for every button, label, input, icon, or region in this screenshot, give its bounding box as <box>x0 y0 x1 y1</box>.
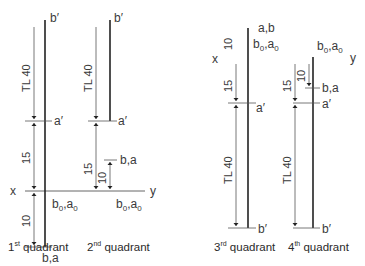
q3-caption-label: quadrant <box>227 241 276 253</box>
right-panel: x y a,b b0,a0 10 15 a′ TL 40 b′ <box>212 21 356 236</box>
q1-tl-label: TL 40 <box>20 64 32 92</box>
q3-b-prime-label: b′ <box>258 222 268 236</box>
q1-15-label: 15 <box>20 152 32 164</box>
q4-ba-label: b,a <box>322 81 339 95</box>
q2-caption-label: quadrant <box>101 241 150 253</box>
q3-tl-label: TL 40 <box>222 156 234 184</box>
q4-10-label: 10 <box>295 70 307 82</box>
x-axis-label: x <box>10 184 16 198</box>
q2-tl-label: TL 40 <box>82 64 94 92</box>
captions: 1st quadrant 2nd quadrant 3rd quadrant 4… <box>8 240 350 253</box>
q2-caption-sup: nd <box>93 240 101 247</box>
quadrant-4: b0,a0 10 15 b,a a′ TL 40 b′ <box>281 39 343 236</box>
q1-caption-label: quadrant <box>20 241 69 253</box>
right-y-axis-label: y <box>350 51 356 65</box>
caption-quadrant-4: 4th quadrant <box>288 240 350 253</box>
left-panel: x y b′ a′ TL 40 15 10 b0,a0 b,a <box>0 0 156 265</box>
q1-a-prime-label: a′ <box>54 114 64 128</box>
right-x-axis-label: x <box>212 52 218 66</box>
q4-b-prime-label: b′ <box>322 222 332 236</box>
q2-ba-label: b,a <box>120 153 137 167</box>
q1-ba-label: b,a <box>42 251 59 265</box>
q3-15-label: 15 <box>222 80 234 92</box>
quadrant-3: a,b b0,a0 10 15 a′ TL 40 b′ <box>222 21 279 236</box>
q1-ground-label: b0,a0 <box>52 197 78 213</box>
y-axis-label: y <box>150 184 156 198</box>
quadrant-1: b′ a′ TL 40 15 10 b0,a0 b,a <box>20 11 78 265</box>
q4-15-label: 15 <box>281 80 293 92</box>
q2-ground-label: b0,a0 <box>116 197 142 213</box>
quadrant-2: b′ a′ b,a TL 40 15 10 b0,a0 <box>82 11 142 213</box>
q2-15-label: 15 <box>82 163 94 175</box>
q4-caption-label: quadrant <box>300 241 349 253</box>
q2-b-prime-label: b′ <box>114 11 124 25</box>
q2-a-prime-label: a′ <box>118 114 128 128</box>
q4-tl-label: TL 40 <box>281 156 293 184</box>
caption-quadrant-2: 2nd quadrant <box>87 240 151 253</box>
q1-b-prime-label: b′ <box>50 11 60 25</box>
q3-a-prime-label: a′ <box>256 101 266 115</box>
q1-10-label: 10 <box>20 215 32 227</box>
q3-ab-label: a,b <box>258 21 275 35</box>
caption-quadrant-1: 1st quadrant <box>8 240 69 253</box>
q3-ground-label: b0,a0 <box>253 37 279 53</box>
q4-a-prime-label: a′ <box>322 97 332 111</box>
q3-10-label: 10 <box>222 38 234 50</box>
caption-quadrant-3: 3rd quadrant <box>214 240 276 253</box>
q2-10-label: 10 <box>96 172 108 184</box>
q4-ground-label: b0,a0 <box>317 39 343 55</box>
quadrant-projection-diagram: x y b′ a′ TL 40 15 10 b0,a0 b,a <box>0 0 365 266</box>
